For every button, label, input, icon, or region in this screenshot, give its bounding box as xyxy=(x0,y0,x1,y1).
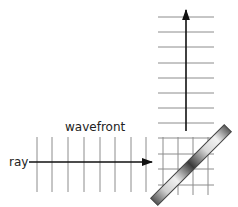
wavefront-label: wavefront xyxy=(65,120,125,134)
incident-wavefronts xyxy=(37,137,146,192)
ray-label: ray xyxy=(9,155,28,169)
reflection-diagram: ray wavefront xyxy=(0,0,238,207)
